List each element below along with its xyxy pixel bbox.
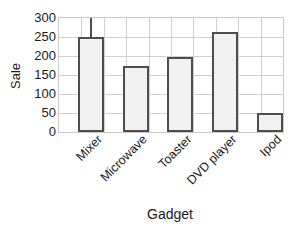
y-tick-label: 100 bbox=[18, 87, 56, 100]
bar bbox=[167, 57, 193, 132]
bar bbox=[78, 37, 104, 132]
bar bbox=[123, 66, 149, 133]
bar bbox=[257, 113, 283, 132]
y-tick-label: 150 bbox=[18, 68, 56, 81]
x-tick-label: Mixer bbox=[69, 133, 105, 169]
y-tick-label: 200 bbox=[18, 49, 56, 62]
bars-group bbox=[59, 18, 283, 132]
plot-area bbox=[58, 17, 284, 133]
y-tick-label: 50 bbox=[18, 106, 56, 119]
x-axis-title: Gadget bbox=[58, 206, 282, 222]
bar-chart: Sale 050100150200250300 MixerMicrowaveTo… bbox=[0, 0, 292, 236]
error-bar bbox=[90, 18, 92, 37]
bar bbox=[212, 32, 238, 132]
y-tick-label: 300 bbox=[18, 11, 56, 24]
y-axis-tick-labels: 050100150200250300 bbox=[18, 10, 56, 138]
y-tick-label: 0 bbox=[18, 125, 56, 138]
x-axis-tick-labels: MixerMicrowaveToasterDVD playerIpod bbox=[58, 133, 282, 199]
y-tick-label: 250 bbox=[18, 30, 56, 43]
